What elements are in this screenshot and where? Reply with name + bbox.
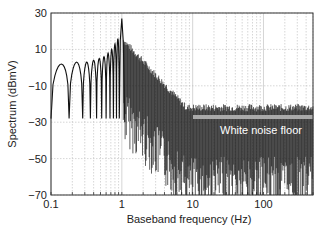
svg-text:−50: −50 [28,153,47,165]
spectrum-chart: White noise floor 3010−10−30−50−70 0.111… [0,0,322,238]
svg-text:10: 10 [35,43,47,55]
svg-text:30: 30 [35,7,47,19]
spectrum-curve [51,19,313,196]
noise-floor-label: White noise floor [220,124,302,136]
svg-text:10: 10 [187,198,199,210]
noise-floor-line [193,115,313,119]
svg-text:0.1: 0.1 [43,198,58,210]
svg-text:−10: −10 [28,80,47,92]
y-tick-labels: 3010−10−30−50−70 [28,7,47,201]
x-tick-labels: 0.1110100 [43,198,272,210]
x-axis-label: Baseband frequency (Hz) [127,213,252,225]
svg-text:−30: −30 [28,116,47,128]
svg-text:1: 1 [119,198,125,210]
y-axis-label: Spectrum (dBmV) [6,60,18,147]
svg-text:100: 100 [254,198,272,210]
